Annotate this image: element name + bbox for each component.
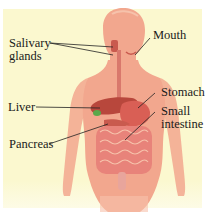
label-mouth: Mouth xyxy=(153,29,186,42)
label-salivary-glands-line2: glands xyxy=(9,50,42,63)
gallbladder-organ xyxy=(93,110,101,116)
rectum-organ xyxy=(118,172,126,190)
label-small-intestine-line2: intestine xyxy=(161,118,203,131)
salivary-gland xyxy=(111,40,118,52)
label-stomach: Stomach xyxy=(161,86,205,99)
label-liver: Liver xyxy=(8,101,35,114)
label-pancreas: Pancreas xyxy=(9,138,53,151)
esophagus xyxy=(117,50,121,98)
